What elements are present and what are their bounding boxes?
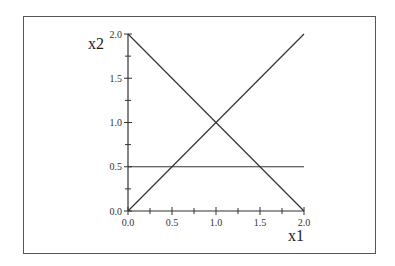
y-axis-title: x2 bbox=[88, 35, 104, 52]
x-tick-label: 1.5 bbox=[254, 217, 267, 228]
y-tick-label: 0.0 bbox=[110, 206, 123, 217]
y-tick-label: 1.5 bbox=[110, 73, 123, 84]
y-tick-label: 2.0 bbox=[110, 29, 123, 40]
x-tick-label: 1.0 bbox=[210, 217, 223, 228]
chart: 0.00.51.01.52.00.00.51.01.52.0 x2 x1 bbox=[0, 0, 395, 266]
x-tick-label: 0.0 bbox=[122, 217, 135, 228]
x-axis-title: x1 bbox=[288, 227, 304, 244]
chart-frame bbox=[24, 17, 376, 254]
x-tick-label: 0.5 bbox=[166, 217, 179, 228]
y-tick-label: 0.5 bbox=[110, 161, 123, 172]
series-group bbox=[128, 34, 304, 211]
y-tick-label: 1.0 bbox=[110, 117, 123, 128]
